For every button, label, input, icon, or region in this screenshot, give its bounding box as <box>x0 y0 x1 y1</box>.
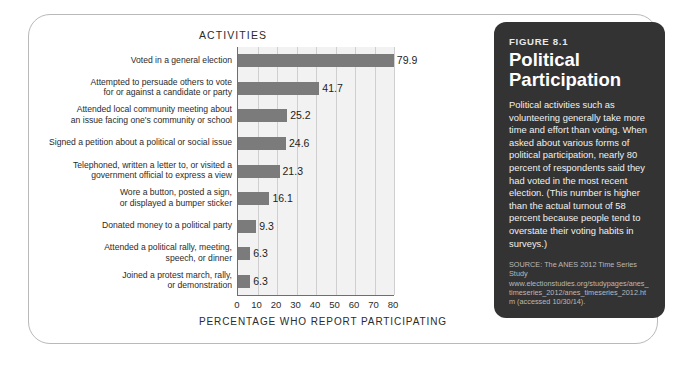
bar-value-label: 6.3 <box>253 247 268 260</box>
bar <box>238 192 269 205</box>
category-label: Attended a political rally, meeting,spee… <box>28 242 232 263</box>
figure-number: FIGURE 8.1 <box>509 36 650 47</box>
x-axis-title: PERCENTAGE WHO REPORT PARTICIPATING <box>178 316 468 327</box>
category-label-line: Joined a protest march, rally, <box>28 270 232 280</box>
bar-value-label: 79.9 <box>397 54 417 67</box>
bar <box>238 137 286 150</box>
bar <box>238 275 250 288</box>
plot-wrapper: Voted in a general electionAttempted to … <box>28 47 478 302</box>
category-label-line: Attended local community meeting about <box>28 104 232 114</box>
category-label-line: Attempted to persuade others to vote <box>28 77 232 87</box>
figure-source-note: SOURCE: The ANES 2012 Time Series Study … <box>509 260 650 306</box>
bar-value-label: 21.3 <box>283 165 303 178</box>
bar <box>238 220 256 233</box>
category-label-line: Wore a button, posted a sign, <box>28 187 232 197</box>
category-label-line: for or against a candidate or party <box>28 87 232 97</box>
gridline-60 <box>355 47 356 295</box>
gridline-70 <box>375 47 376 295</box>
bar-value-label: 41.7 <box>322 82 342 95</box>
chart-title: ACTIVITIES <box>28 29 438 41</box>
bar <box>238 165 280 178</box>
category-label: Telephoned, written a letter to, or visi… <box>28 160 232 181</box>
bar-value-label: 16.1 <box>272 192 292 205</box>
category-label-line: Signed a petition about a political or s… <box>28 137 232 147</box>
bar-value-label: 6.3 <box>253 275 268 288</box>
bar-chart-panel: ACTIVITIES Voted in a general electionAt… <box>28 14 478 344</box>
figure-title: Political Participation <box>509 50 650 90</box>
bar <box>238 82 319 95</box>
category-label-line: an issue facing one's community or schoo… <box>28 115 232 125</box>
category-label: Donated money to a political party <box>28 220 232 230</box>
category-label: Attended local community meeting aboutan… <box>28 104 232 125</box>
bar <box>238 54 394 67</box>
category-label: Wore a button, posted a sign,or displaye… <box>28 187 232 208</box>
category-label-line: Voted in a general election <box>28 55 232 65</box>
figure-caption-text: Political activities such as volunteerin… <box>509 99 650 250</box>
bar <box>238 247 250 260</box>
category-label-line: or demonstration <box>28 280 232 290</box>
x-tick-label: 80 <box>381 299 405 310</box>
bar-value-label: 9.3 <box>259 220 274 233</box>
category-label: Voted in a general election <box>28 55 232 65</box>
category-label: Attempted to persuade others to votefor … <box>28 77 232 98</box>
figure-title-line-2: Participation <box>509 70 650 90</box>
category-label-line: speech, or dinner <box>28 253 232 263</box>
category-label-line: or displayed a bumper sticker <box>28 198 232 208</box>
bar <box>238 109 287 122</box>
category-label-line: government official to express a view <box>28 170 232 180</box>
category-label-line: Attended a political rally, meeting, <box>28 242 232 252</box>
figure-caption-panel: FIGURE 8.1 Political Participation Polit… <box>494 22 665 318</box>
bar-value-label: 25.2 <box>290 109 310 122</box>
category-label-column: Voted in a general electionAttempted to … <box>28 47 232 295</box>
gridline-80 <box>394 47 395 295</box>
category-label: Signed a petition about a political or s… <box>28 137 232 147</box>
category-label: Joined a protest march, rally,or demonst… <box>28 270 232 291</box>
category-label-line: Donated money to a political party <box>28 220 232 230</box>
category-label-line: Telephoned, written a letter to, or visi… <box>28 160 232 170</box>
bar-value-label: 24.6 <box>289 137 309 150</box>
figure-title-line-1: Political <box>509 50 650 70</box>
